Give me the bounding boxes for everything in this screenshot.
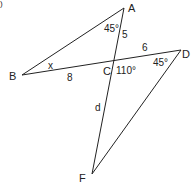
angle-label-C: 110° xyxy=(116,65,136,76)
angle-label-B: x xyxy=(48,60,53,71)
point-label-B: B xyxy=(9,70,16,82)
point-label-F: F xyxy=(79,172,86,184)
angle-label-A: 45° xyxy=(104,23,119,34)
side-label-BC: 8 xyxy=(67,72,73,83)
side-label-CD: 6 xyxy=(142,42,148,53)
point-label-C: C xyxy=(103,65,111,77)
corner-mark: ) xyxy=(0,0,3,8)
angle-label-D: 45° xyxy=(153,57,168,68)
side-label-CF: d xyxy=(95,102,101,113)
side-label-AC: 5 xyxy=(122,29,128,40)
point-label-D: D xyxy=(182,48,190,60)
geometry-diagram: ) A B C D F 45° x 110° 45° 5 8 6 d xyxy=(0,0,192,191)
point-label-A: A xyxy=(128,2,136,14)
